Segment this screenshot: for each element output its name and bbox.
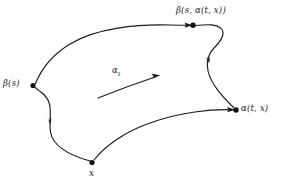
- label-beta-s: β(s): [3, 79, 20, 88]
- node-dot-beta-s: [30, 83, 35, 88]
- left-edge-arrowhead: [47, 117, 51, 125]
- edge-left: [35, 88, 90, 162]
- figure-container: β(s) β(s, α(t, x)) α(t, x) x αt: [0, 0, 281, 184]
- label-x: x: [89, 169, 94, 178]
- edge-right: [196, 25, 234, 108]
- label-alpha-t-x: α(t, x): [241, 104, 268, 113]
- flow-arrow-line: [98, 77, 157, 99]
- node-dot-beta-s-alpha: [190, 23, 195, 28]
- node-dot-alpha-tx: [233, 107, 238, 112]
- flow-label-subscript: t: [118, 70, 121, 77]
- bottom-edge-path: [94, 110, 232, 160]
- right-edge-path: [196, 25, 234, 108]
- node-dot-x: [89, 160, 94, 165]
- label-flow-alpha-t: αt: [112, 66, 121, 77]
- label-beta-s-alpha-t-x: β(s, α(t, x)): [176, 6, 226, 15]
- diagram-canvas: [0, 0, 281, 184]
- left-edge-path: [35, 88, 90, 162]
- flow-arrowhead: [152, 74, 161, 79]
- edge-bottom: [94, 107, 235, 160]
- flow-arrow: [98, 74, 161, 98]
